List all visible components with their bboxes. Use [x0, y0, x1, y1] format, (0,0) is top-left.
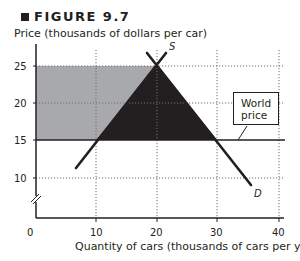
y-tick-25: 25: [14, 61, 27, 72]
world-price-callout: World price: [233, 92, 279, 125]
supply-label: S: [169, 41, 176, 52]
chart-plot: S D 25 20 15 10 0 10 20 30 40: [0, 0, 300, 261]
origin-label: 0: [27, 227, 33, 238]
world-price-leader: [238, 126, 247, 140]
x-tick-40: 40: [272, 227, 285, 238]
y-tick-15: 15: [14, 135, 27, 146]
x-tick-30: 30: [210, 227, 223, 238]
y-tick-10: 10: [14, 173, 27, 184]
demand-label: D: [254, 188, 262, 199]
x-axis-label: Quantity of cars (thousands of cars per …: [75, 240, 300, 253]
x-tick-10: 10: [90, 227, 103, 238]
x-tick-20: 20: [150, 227, 163, 238]
y-tick-20: 20: [14, 98, 27, 109]
